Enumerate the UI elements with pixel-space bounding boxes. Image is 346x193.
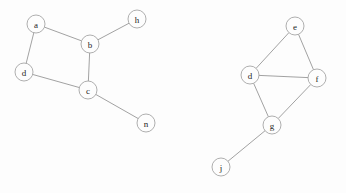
node-circle[interactable] [308,69,326,87]
graph-edge [98,23,129,40]
graph-node[interactable]: d [15,63,33,81]
graph-edge [299,34,314,69]
node-circle[interactable] [137,114,155,132]
graph-edge [278,85,311,119]
graph-edge [33,74,80,87]
node-circle[interactable] [27,15,45,33]
graph-edge [259,75,308,77]
node-layer: abhdcnedfgj [15,10,326,176]
node-circle[interactable] [263,116,281,134]
graph-node[interactable]: f [308,69,326,87]
node-circle[interactable] [128,10,146,28]
node-circle[interactable] [15,63,33,81]
graph-edge [96,94,138,118]
graph-node[interactable]: e [286,17,304,35]
graph-edge [26,33,34,64]
node-circle[interactable] [79,81,97,99]
graph-edge [256,33,289,69]
graph-node[interactable]: h [128,10,146,28]
node-circle[interactable] [241,66,259,84]
graph-node[interactable]: g [263,116,281,134]
node-circle[interactable] [286,17,304,35]
graph-node[interactable]: n [137,114,155,132]
graph-node[interactable]: b [81,35,99,53]
node-circle[interactable] [212,158,230,176]
graph-node[interactable]: d [241,66,259,84]
node-circle[interactable] [81,35,99,53]
graph-node[interactable]: c [79,81,97,99]
edge-layer [26,23,313,161]
graph-diagram: abhdcnedfgj [0,0,346,193]
graph-edge [254,83,269,117]
graph-edge [44,27,81,41]
graph-edge [88,53,89,81]
graph-node[interactable]: a [27,15,45,33]
graph-edge [228,131,265,162]
graph-node[interactable]: j [212,158,230,176]
